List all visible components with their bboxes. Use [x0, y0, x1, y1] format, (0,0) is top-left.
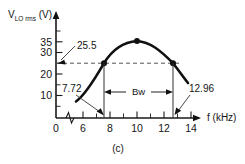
lower-cutoff-leader-line — [76, 95, 100, 112]
resonance-response-chart: VLO rms (V) 10 20 30 35 — [0, 0, 245, 164]
half-power-leader-line — [61, 46, 75, 60]
x-axis-arrowhead — [193, 115, 201, 121]
y-tick-label-35: 35 — [40, 36, 52, 48]
bandwidth-right-arrowhead — [166, 89, 173, 94]
figure-caption: (c) — [112, 143, 124, 154]
y-axis-title-subscript: LO rms — [15, 15, 37, 22]
x-tick-label-8: 8 — [107, 122, 113, 134]
x-tick-label-6: 6 — [80, 122, 86, 134]
y-axis-title-unit: (V) — [39, 9, 52, 20]
lower-cutoff-leader-arrowhead — [97, 108, 104, 115]
bandwidth-label: Bw — [132, 86, 145, 97]
y-axis-title: VLO rms (V) — [8, 9, 52, 22]
figure-container: VLO rms (V) 10 20 30 35 — [0, 0, 245, 164]
y-tick-label-20: 20 — [40, 68, 52, 80]
x-tick-label-14: 14 — [185, 122, 197, 134]
x-tick-label-10: 10 — [131, 122, 143, 134]
lower-cutoff-value-label: 7.72 — [62, 83, 82, 94]
upper-cutoff-leader-line — [178, 95, 190, 111]
y-tick-label-30: 30 — [40, 46, 52, 58]
y-axis-arrowhead — [53, 11, 60, 19]
x-tick-label-0: 0 — [53, 122, 59, 134]
half-power-leader-arrowhead — [58, 60, 66, 65]
half-power-value-label: 25.5 — [77, 40, 97, 51]
x-axis-title: f (kHz) — [207, 112, 236, 123]
bandwidth-left-arrowhead — [104, 89, 111, 94]
y-tick-label-10: 10 — [40, 89, 52, 101]
upper-cutoff-value-label: 12.96 — [189, 83, 214, 94]
peak-marker — [134, 38, 140, 44]
x-tick-label-12: 12 — [158, 122, 170, 134]
